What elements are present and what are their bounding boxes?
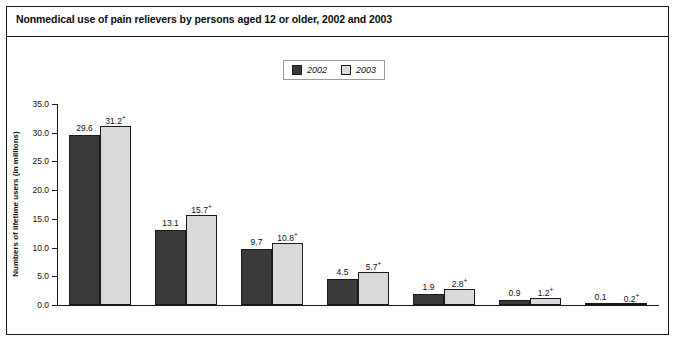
bar-2003-0 (100, 126, 131, 305)
legend-item-2002: 2002 (292, 65, 327, 75)
y-axis-tick (52, 133, 57, 134)
y-axis-tick (52, 190, 57, 191)
y-axis-tick-label: 20.0 (7, 185, 49, 195)
legend-label-2003: 2003 (356, 65, 376, 75)
bar-value-label: 13.1 (162, 218, 179, 228)
chart-figure: Nonmedical use of pain relievers by pers… (0, 0, 675, 341)
y-axis-tick (52, 276, 57, 277)
bar-2003-2 (272, 243, 303, 305)
y-axis-tick-label: 10.0 (7, 243, 49, 253)
y-axis-tick (52, 219, 57, 220)
title-divider (7, 36, 668, 37)
legend-swatch-2003 (341, 65, 351, 75)
chart-legend: 2002 2003 (283, 60, 385, 80)
bar-value-label: 2.8+ (452, 277, 468, 289)
bar-value-label: 29.6 (76, 123, 93, 133)
bar-2002-3 (327, 279, 358, 305)
bar-value-label: 15.7+ (191, 203, 211, 215)
y-axis-tick (52, 104, 57, 105)
legend-label-2002: 2002 (307, 65, 327, 75)
bar-value-label: 0.2+ (624, 292, 640, 304)
bar-2002-6 (585, 303, 616, 305)
bar-2002-1 (155, 230, 186, 305)
bar-2002-4 (413, 294, 444, 305)
bar-value-label: 0.1 (595, 292, 607, 302)
bar-value-label: 31.2+ (105, 114, 125, 126)
chart-title: Nonmedical use of pain relievers by pers… (16, 13, 392, 25)
bar-2002-0 (69, 135, 100, 305)
y-axis-tick (52, 161, 57, 162)
bar-value-label: 5.7+ (366, 260, 382, 272)
y-axis-tick-label: 0.0 (7, 300, 49, 310)
plot-area: Numbers of lifetime users (in millions) … (57, 104, 659, 305)
x-axis-line (57, 305, 659, 306)
y-axis-tick (52, 248, 57, 249)
bar-2003-4 (444, 289, 475, 305)
y-axis-title: Numbers of lifetime users (in millions) (11, 131, 20, 276)
y-axis-tick-label: 5.0 (7, 271, 49, 281)
y-axis-tick-label: 30.0 (7, 128, 49, 138)
bar-value-label: 1.2+ (538, 286, 554, 298)
y-axis-tick-label: 35.0 (7, 99, 49, 109)
y-axis-tick-label: 25.0 (7, 156, 49, 166)
y-axis-tick (52, 305, 57, 306)
bar-value-label: 4.5 (337, 267, 349, 277)
bar-value-label: 9.7 (251, 237, 263, 247)
bar-2002-5 (499, 300, 530, 305)
bar-value-label: 1.9 (423, 282, 435, 292)
bar-2003-1 (186, 215, 217, 305)
bar-value-label: 10.8+ (277, 231, 297, 243)
bar-2003-5 (530, 298, 561, 305)
bar-2003-3 (358, 272, 389, 305)
bar-2002-2 (241, 249, 272, 305)
legend-item-2003: 2003 (341, 65, 376, 75)
bar-value-label: 0.9 (509, 288, 521, 298)
legend-swatch-2002 (292, 65, 302, 75)
y-axis-tick-label: 15.0 (7, 214, 49, 224)
